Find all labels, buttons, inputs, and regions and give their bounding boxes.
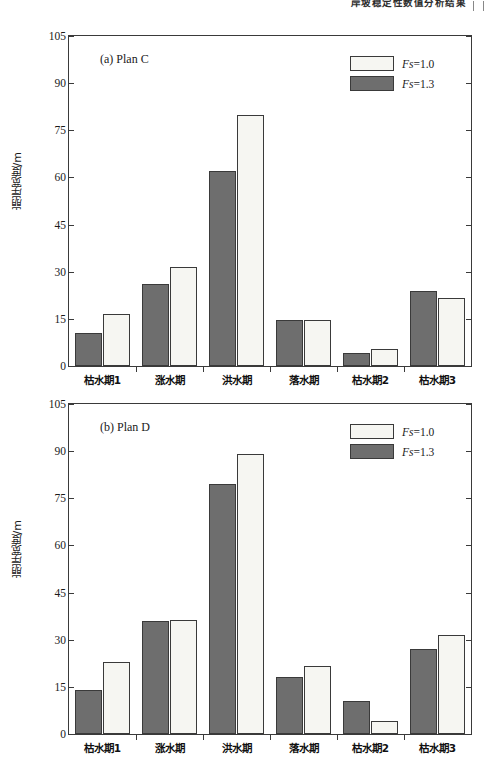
y-axis-tick-mark <box>68 272 74 273</box>
y-axis-tick-label: 45 <box>36 219 66 231</box>
y-axis-tick-mark <box>68 545 74 546</box>
bar-fs-1-0 <box>237 115 264 366</box>
bar-group <box>270 36 337 366</box>
bar-fs-1-3 <box>142 284 169 366</box>
bar-fs-1-0 <box>304 320 331 367</box>
legend-relation: =1.3 <box>414 78 435 90</box>
y-axis-tick-mark <box>68 83 74 84</box>
y-axis-tick-label: 60 <box>36 171 66 183</box>
y-axis-tick-mark <box>68 687 74 688</box>
y-axis-tick-mark-right <box>466 225 472 226</box>
bar-fs-1-0 <box>170 267 197 366</box>
bar-fs-1-0 <box>438 635 465 734</box>
bar-fs-1-3 <box>209 171 236 366</box>
y-axis-tick-mark <box>68 451 74 452</box>
y-axis-tick-mark-right <box>466 177 472 178</box>
legend-label-fs-1-0: Fs=1.0 <box>402 58 434 70</box>
x-axis-tick-label: 枯水期1 <box>84 372 121 387</box>
y-axis-tick-mark <box>68 225 74 226</box>
y-axis-tick-label: 15 <box>36 681 66 693</box>
x-axis-tick-label: 枯水期2 <box>352 372 389 387</box>
y-axis-tick-label: 90 <box>36 445 66 457</box>
legend-swatch-dark-icon <box>350 444 394 459</box>
y-axis-tick-label: 60 <box>36 539 66 551</box>
bar-fs-1-3 <box>410 649 437 734</box>
bar-fs-1-3 <box>209 484 236 734</box>
bar-fs-1-3 <box>343 701 370 734</box>
y-axis-tick-mark <box>68 640 74 641</box>
y-axis-tick-mark-right <box>466 272 472 273</box>
x-axis-tick-label: 枯水期3 <box>419 740 456 755</box>
y-axis-tick-label: 90 <box>36 77 66 89</box>
x-axis-tick-mark <box>203 367 204 372</box>
bar-fs-1-3 <box>142 621 169 734</box>
x-axis-tick-mark <box>136 367 137 372</box>
y-axis-tick-mark-right <box>466 36 472 37</box>
legend-relation: =1.0 <box>414 58 435 70</box>
bar-group <box>270 404 337 734</box>
y-axis-ticks-a: 0153045607590105 <box>30 22 66 368</box>
y-axis-tick-label: 0 <box>36 728 66 740</box>
legend-entry-fs-1-3: Fs=1.3 <box>350 75 468 92</box>
legend-symbol: Fs <box>402 78 414 90</box>
legend-label-fs-1-0: Fs=1.0 <box>402 426 434 438</box>
y-axis-tick-mark <box>68 130 74 131</box>
chart-panel-b: 崩岸宽度/m 0153045607590105 (b) Plan D Fs=1.… <box>0 390 488 758</box>
legend-entry-fs-1-3: Fs=1.3 <box>350 443 468 460</box>
bar-group <box>69 404 136 734</box>
legend-label-fs-1-3: Fs=1.3 <box>402 446 434 458</box>
x-axis-tick-mark <box>404 367 405 372</box>
y-axis-tick-label: 75 <box>36 492 66 504</box>
legend-entry-fs-1-0: Fs=1.0 <box>350 55 468 72</box>
legend-entry-fs-1-0: Fs=1.0 <box>350 423 468 440</box>
x-axis-tick-mark <box>136 735 137 740</box>
bar-group <box>203 404 270 734</box>
y-axis-tick-label: 105 <box>36 398 66 410</box>
bar-group <box>136 404 203 734</box>
x-axis-tick-mark <box>337 367 338 372</box>
x-axis-tick-label: 枯水期1 <box>84 740 121 755</box>
y-axis-tick-label: 30 <box>36 634 66 646</box>
x-axis-tick-label: 涨水期 <box>155 740 185 755</box>
bar-fs-1-0 <box>237 454 264 734</box>
running-header: 岸坡稳定性数值分析结果 <box>0 0 488 14</box>
x-axis-tick-label: 枯水期3 <box>419 372 456 387</box>
x-axis-tick-label: 落水期 <box>289 372 319 387</box>
x-axis-tick-mark <box>337 735 338 740</box>
y-axis-tick-mark-right <box>466 640 472 641</box>
y-axis-tick-mark <box>68 36 74 37</box>
x-axis-tick-label: 落水期 <box>289 740 319 755</box>
y-axis-title-b: 崩岸宽度/m <box>10 520 26 578</box>
legend-relation: =1.3 <box>414 446 435 458</box>
y-axis-tick-mark-right <box>466 83 472 84</box>
x-axis-tick-label: 洪水期 <box>222 740 252 755</box>
y-axis-tick-label: 105 <box>36 30 66 42</box>
legend-symbol: Fs <box>402 58 414 70</box>
bar-fs-1-0 <box>103 662 130 734</box>
y-axis-tick-mark <box>68 319 74 320</box>
y-axis-tick-mark <box>68 593 74 594</box>
legend-symbol: Fs <box>402 426 414 438</box>
bar-fs-1-3 <box>276 677 303 734</box>
legend-swatch-dark-icon <box>350 76 394 91</box>
x-axis-tick-label: 洪水期 <box>222 372 252 387</box>
legend-label-fs-1-3: Fs=1.3 <box>402 78 434 90</box>
y-axis-ticks-b: 0153045607590105 <box>30 390 66 736</box>
y-axis-tick-label: 75 <box>36 124 66 136</box>
bar-group <box>136 36 203 366</box>
y-axis-tick-mark-right <box>466 498 472 499</box>
legend-a: Fs=1.0 Fs=1.3 <box>350 55 468 95</box>
y-axis-tick-mark-right <box>466 593 472 594</box>
x-axis-tick-mark <box>404 735 405 740</box>
legend-swatch-light-icon <box>350 424 394 439</box>
y-axis-tick-mark-right <box>466 404 472 405</box>
y-axis-title-a: 崩岸宽度/m <box>10 152 26 210</box>
legend-symbol: Fs <box>402 446 414 458</box>
x-axis-tick-label: 涨水期 <box>155 372 185 387</box>
y-axis-tick-mark <box>68 498 74 499</box>
x-axis-tick-mark <box>270 367 271 372</box>
page-edge-rule-icon <box>473 1 484 11</box>
chart-panel-a: 崩岸宽度/m 0153045607590105 (a) Plan C Fs=1.… <box>0 22 488 388</box>
bar-fs-1-0 <box>371 349 398 366</box>
legend-swatch-light-icon <box>350 56 394 71</box>
